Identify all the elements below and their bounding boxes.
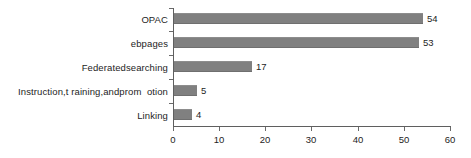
category-axis-tick <box>169 103 173 104</box>
bar-chart: OPAC ebpages Federatedsearching Instruct… <box>0 0 471 158</box>
value-label-federated-searching: 17 <box>256 61 267 72</box>
x-tick-label-10: 10 <box>206 134 232 145</box>
category-axis-tick <box>169 55 173 56</box>
category-axis-tick <box>169 8 173 9</box>
category-label-federated-searching: Federatedsearching <box>0 62 168 73</box>
value-label-instruction-training-promotion: 5 <box>201 85 206 96</box>
category-axis-tick <box>169 79 173 80</box>
value-label-linking: 4 <box>196 109 201 120</box>
value-axis-tick <box>311 127 312 131</box>
bar-ebpages <box>174 37 419 48</box>
bar-opac <box>174 13 423 24</box>
value-axis-line <box>173 126 451 127</box>
value-label-opac: 54 <box>427 13 438 24</box>
x-tick-label-40: 40 <box>345 134 371 145</box>
x-tick-label-30: 30 <box>298 134 324 145</box>
x-tick-label-60: 60 <box>437 134 463 145</box>
category-label-linking: Linking <box>0 110 168 121</box>
category-label-ebpages: ebpages <box>0 38 168 49</box>
value-label-ebpages: 53 <box>423 37 434 48</box>
value-axis-tick <box>404 127 405 131</box>
bar-linking <box>174 109 192 120</box>
value-axis-tick <box>219 127 220 131</box>
category-label-instruction-training-promotion: Instruction,t raining,andprom otion <box>0 86 168 97</box>
x-tick-label-0: 0 <box>160 134 186 145</box>
plot-area: OPAC ebpages Federatedsearching Instruct… <box>0 0 471 158</box>
value-axis-tick <box>358 127 359 131</box>
value-axis-tick <box>265 127 266 131</box>
value-axis-tick <box>173 127 174 131</box>
category-label-opac: OPAC <box>0 14 168 25</box>
category-axis-tick <box>169 31 173 32</box>
value-axis-tick <box>450 127 451 131</box>
x-tick-label-20: 20 <box>252 134 278 145</box>
x-tick-label-50: 50 <box>391 134 417 145</box>
bar-instruction-training-promotion <box>174 85 197 96</box>
bar-federated-searching <box>174 61 252 72</box>
